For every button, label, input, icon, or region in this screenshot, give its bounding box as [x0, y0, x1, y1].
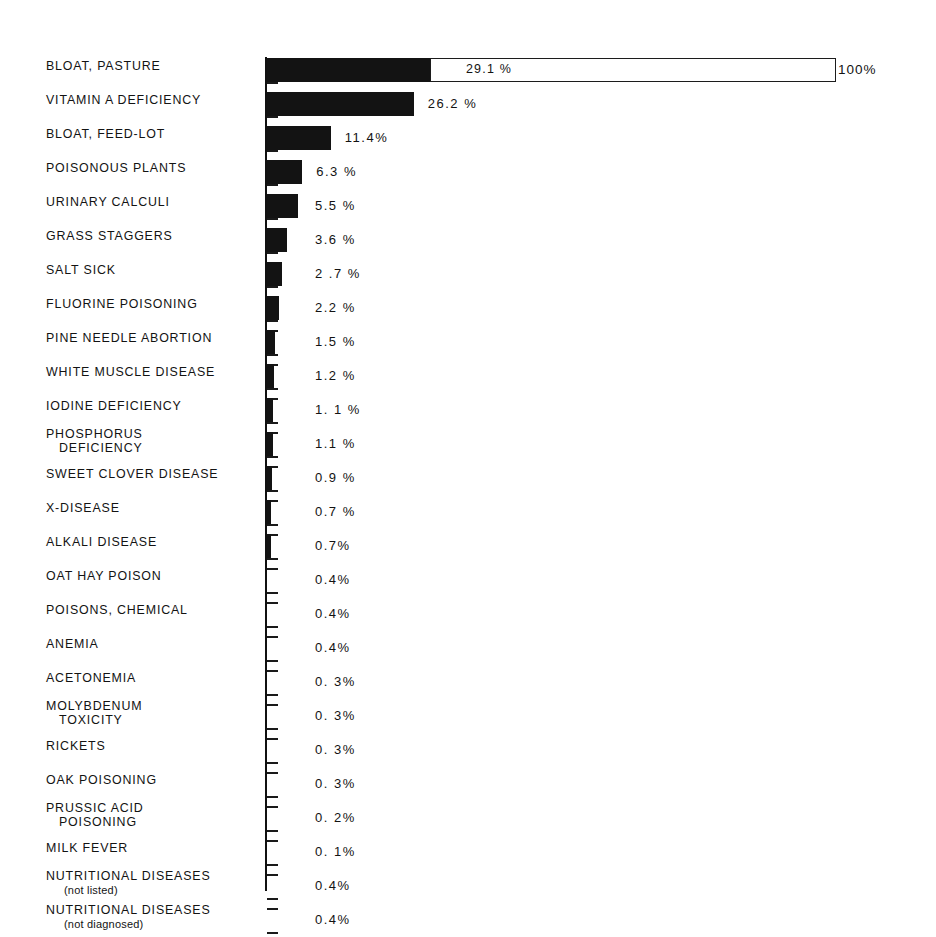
category-label: VITAMIN A DEFICIENCY: [46, 94, 258, 107]
category-label-line1: NUTRITIONAL DISEASES: [46, 870, 258, 884]
bar-value-label: 11.4%: [345, 130, 388, 145]
category-label: FLUORINE POISONING: [46, 298, 258, 311]
bar-value-label: 6.3 %: [316, 164, 357, 179]
bar: [267, 194, 298, 218]
category-label: RICKETS: [46, 740, 258, 753]
bar-value-label: 0. 3%: [315, 742, 356, 757]
category-label-line1: PINE NEEDLE ABORTION: [46, 332, 258, 345]
bar-value-label: 0. 3%: [315, 674, 356, 689]
category-label: GRASS STAGGERS: [46, 230, 258, 243]
category-label-line1: NUTRITIONAL DISEASES: [46, 904, 258, 918]
category-label-line1: POISONS, CHEMICAL: [46, 604, 258, 617]
category-label: PRUSSIC ACIDPOISONING: [46, 802, 258, 829]
category-label-line1: MOLYBDENUM: [46, 700, 258, 714]
chart-row: SWEET CLOVER DISEASE: [0, 460, 936, 494]
bar: [267, 534, 271, 558]
category-label: SALT SICK: [46, 264, 258, 277]
category-label: NUTRITIONAL DISEASES(not diagnosed): [46, 904, 258, 931]
category-label-line1: VITAMIN A DEFICIENCY: [46, 94, 258, 107]
category-label: WHITE MUSCLE DISEASE: [46, 366, 258, 379]
category-label-line1: MILK FEVER: [46, 842, 258, 855]
bar: [267, 330, 275, 354]
chart-row: ALKALI DISEASE: [0, 528, 936, 562]
category-label-line1: OAT HAY POISON: [46, 570, 258, 583]
bar-value-label: 1. 1 %: [315, 402, 361, 417]
bar-value-label: 3.6 %: [315, 232, 356, 247]
category-label: ACETONEMIA: [46, 672, 258, 685]
category-label: MOLYBDENUMTOXICITY: [46, 700, 258, 727]
bar-value-label: 0. 1%: [315, 844, 356, 859]
bar-value-label: 0.4%: [315, 640, 351, 655]
chart-row: NUTRITIONAL DISEASES(not diagnosed): [0, 902, 936, 936]
category-label-line1: GRASS STAGGERS: [46, 230, 258, 243]
category-label-line1: FLUORINE POISONING: [46, 298, 258, 311]
chart-row: BLOAT, FEED-LOT: [0, 120, 936, 154]
category-label: OAT HAY POISON: [46, 570, 258, 583]
category-label-line1: SALT SICK: [46, 264, 258, 277]
bar-value-label: 0.4%: [315, 912, 351, 927]
bar-value-label: 0.7 %: [315, 504, 356, 519]
category-label-line1: X-DISEASE: [46, 502, 258, 515]
bar: [267, 432, 273, 456]
category-label-line1: POISONOUS PLANTS: [46, 162, 258, 175]
category-label: POISONS, CHEMICAL: [46, 604, 258, 617]
chart-row: PRUSSIC ACIDPOISONING: [0, 800, 936, 834]
bar: [267, 296, 279, 320]
category-label-line1: ANEMIA: [46, 638, 258, 651]
reference-100-percent-label: 100%: [838, 62, 877, 77]
category-label-line2: POISONING: [46, 816, 258, 830]
category-label: NUTRITIONAL DISEASES(not listed): [46, 870, 258, 897]
category-label-line1: SWEET CLOVER DISEASE: [46, 468, 258, 481]
category-label-line1: ACETONEMIA: [46, 672, 258, 685]
chart-row: POISONOUS PLANTS: [0, 154, 936, 188]
category-label: BLOAT, PASTURE: [46, 60, 258, 73]
category-label-sublabel: (not diagnosed): [46, 918, 258, 932]
chart-row: X-DISEASE: [0, 494, 936, 528]
chart-row: OAK POISONING: [0, 766, 936, 800]
category-label-line1: WHITE MUSCLE DISEASE: [46, 366, 258, 379]
category-label: OAK POISONING: [46, 774, 258, 787]
chart-row: MILK FEVER: [0, 834, 936, 868]
category-label-line1: ALKALI DISEASE: [46, 536, 258, 549]
chart-row: WHITE MUSCLE DISEASE: [0, 358, 936, 392]
chart-row: URINARY CALCULI: [0, 188, 936, 222]
bar-value-label: 0. 2%: [315, 810, 356, 825]
category-label-line1: URINARY CALCULI: [46, 196, 258, 209]
bar: [267, 160, 302, 184]
bar-value-label: 0.4%: [315, 572, 351, 587]
bar-value-label: 0. 3%: [315, 776, 356, 791]
bar: [267, 398, 273, 422]
category-label-line1: BLOAT, FEED-LOT: [46, 128, 258, 141]
bar-value-label: 26.2 %: [428, 96, 477, 111]
bar-value-label: 1.1 %: [315, 436, 356, 451]
category-label-line2: TOXICITY: [46, 714, 258, 728]
category-label: PHOSPHORUSDEFICIENCY: [46, 428, 258, 455]
category-label: ANEMIA: [46, 638, 258, 651]
chart-row: FLUORINE POISONING: [0, 290, 936, 324]
category-label-line1: BLOAT, PASTURE: [46, 60, 258, 73]
category-label: POISONOUS PLANTS: [46, 162, 258, 175]
bar-chart: BLOAT, PASTUREVITAMIN A DEFICIENCYBLOAT,…: [0, 0, 936, 937]
category-label: ALKALI DISEASE: [46, 536, 258, 549]
chart-row: NUTRITIONAL DISEASES(not listed): [0, 868, 936, 902]
bar-value-label: 5.5 %: [315, 198, 356, 213]
bar-value-label: 0.4%: [315, 878, 351, 893]
category-label-line1: IODINE DEFICIENCY: [46, 400, 258, 413]
category-label: X-DISEASE: [46, 502, 258, 515]
category-label: PINE NEEDLE ABORTION: [46, 332, 258, 345]
category-label-line1: PHOSPHORUS: [46, 428, 258, 442]
category-label-sublabel: (not listed): [46, 884, 258, 898]
bar: [267, 126, 331, 150]
bar: [267, 58, 430, 82]
category-label-line1: OAK POISONING: [46, 774, 258, 787]
bar: [267, 466, 272, 490]
category-label: BLOAT, FEED-LOT: [46, 128, 258, 141]
bar-value-label: 1.2 %: [315, 368, 356, 383]
chart-row: MOLYBDENUMTOXICITY: [0, 698, 936, 732]
chart-row: OAT HAY POISON: [0, 562, 936, 596]
bar-value-label: 0.4%: [315, 606, 351, 621]
bar: [267, 262, 282, 286]
chart-row: PINE NEEDLE ABORTION: [0, 324, 936, 358]
category-label-line1: RICKETS: [46, 740, 258, 753]
chart-row: ANEMIA: [0, 630, 936, 664]
